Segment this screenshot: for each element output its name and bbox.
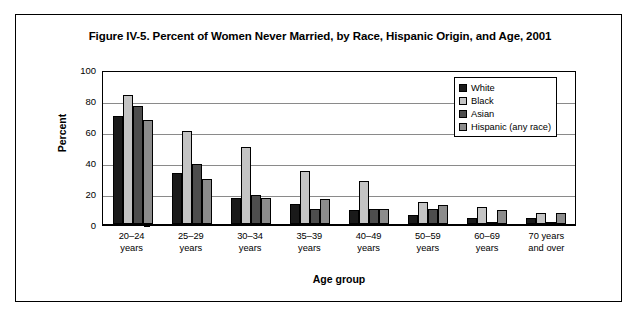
bar-black-4 <box>359 181 369 224</box>
bar-group <box>398 72 457 224</box>
y-tick-20: 20 <box>85 190 96 200</box>
x-tick-1: 25–29years <box>161 231 220 254</box>
figure-frame: Figure IV-5. Percent of Women Never Marr… <box>15 14 622 302</box>
bar-white-5 <box>408 215 418 224</box>
bar-group <box>221 72 280 224</box>
bar-white-7 <box>526 218 536 224</box>
y-axis-tick-labels: 020406080100 <box>64 65 96 232</box>
x-axis-tick-labels: 20–24years25–29years30–34years35–39years… <box>102 231 576 254</box>
legend-label: Asian <box>471 109 494 119</box>
x-tick-6: 60–69years <box>458 231 517 254</box>
x-tick-3: 35–39years <box>280 231 339 254</box>
bar-white-3 <box>290 204 300 224</box>
bar-group <box>280 72 339 224</box>
y-tick-100: 100 <box>80 66 96 76</box>
x-tick-4: 40–49years <box>339 231 398 254</box>
legend-item: Black <box>459 94 551 107</box>
y-tick-60: 60 <box>85 128 96 138</box>
bar-group <box>339 72 398 224</box>
bar-black-1 <box>182 131 192 224</box>
bar-black-7 <box>536 213 546 224</box>
bar-hispanic-any-race-4 <box>379 209 389 225</box>
bar-black-5 <box>418 202 428 224</box>
bar-asian-7 <box>546 222 556 224</box>
legend-item: Hispanic (any race) <box>459 120 551 133</box>
y-tick-80: 80 <box>85 97 96 107</box>
bar-asian-3 <box>310 209 320 225</box>
bar-hispanic-any-race-2 <box>261 198 271 224</box>
bar-group <box>103 72 162 224</box>
x-tick-2: 30–34years <box>221 231 280 254</box>
bar-white-2 <box>231 198 241 224</box>
chart-title: Figure IV-5. Percent of Women Never Marr… <box>64 29 576 44</box>
bar-hispanic-any-race-0 <box>143 120 153 224</box>
bar-hispanic-any-race-6 <box>497 210 507 224</box>
bar-hispanic-any-race-7 <box>556 213 566 224</box>
bar-black-2 <box>241 147 251 225</box>
legend-swatch-icon <box>459 123 467 131</box>
bar-white-0 <box>113 116 123 225</box>
bar-asian-0 <box>133 106 143 224</box>
y-tick-0: 0 <box>91 221 96 231</box>
bar-hispanic-any-race-1 <box>202 179 212 224</box>
bar-group <box>162 72 221 224</box>
bar-white-4 <box>349 210 359 224</box>
legend-label: Hispanic (any race) <box>471 122 551 132</box>
bar-hispanic-any-race-3 <box>320 199 330 224</box>
bar-asian-4 <box>369 209 379 225</box>
bar-asian-1 <box>192 164 202 224</box>
bar-white-1 <box>172 173 182 224</box>
x-axis-title: Age group <box>102 273 576 285</box>
bar-asian-2 <box>251 195 261 224</box>
x-tick-7: 70 yearsand over <box>517 231 576 254</box>
legend-item: Asian <box>459 107 551 120</box>
chart-legend: WhiteBlackAsianHispanic (any race) <box>454 77 557 137</box>
legend-swatch-icon <box>459 84 467 92</box>
bar-black-3 <box>300 171 310 224</box>
legend-item: White <box>459 81 551 94</box>
bar-hispanic-any-race-5 <box>438 205 448 224</box>
bar-white-6 <box>467 218 477 224</box>
legend-swatch-icon <box>459 97 467 105</box>
bar-asian-5 <box>428 209 438 225</box>
legend-swatch-icon <box>459 110 467 118</box>
x-tick-0: 20–24years <box>102 231 161 254</box>
y-tick-40: 40 <box>85 159 96 169</box>
bar-black-0 <box>123 95 133 224</box>
legend-label: Black <box>471 96 494 106</box>
y-tick-mark-0 <box>144 226 150 227</box>
bar-asian-6 <box>487 222 497 224</box>
bar-black-6 <box>477 207 487 224</box>
x-tick-5: 50–59years <box>398 231 457 254</box>
legend-label: White <box>471 83 495 93</box>
